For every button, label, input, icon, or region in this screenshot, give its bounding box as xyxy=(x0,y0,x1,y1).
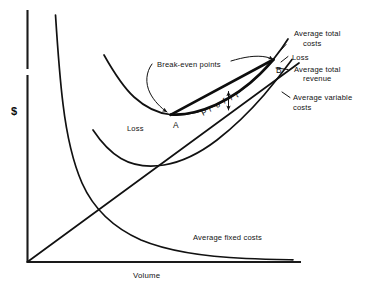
loss-right-leader xyxy=(281,57,288,63)
average-fixed-costs-curve xyxy=(56,15,294,260)
curves-group xyxy=(28,15,299,262)
labels-group: $ Volume Average total costs Loss Averag… xyxy=(11,29,352,280)
break-even-chart-svg: $ Volume Average total costs Loss Averag… xyxy=(0,0,367,286)
point-a-label: A xyxy=(173,120,179,130)
break-even-leader-to-b xyxy=(231,56,273,61)
average-total-revenue-label-line1: Average total xyxy=(294,65,341,74)
point-b-label: B xyxy=(276,65,282,75)
average-total-costs-label-line1: Average total xyxy=(294,29,341,38)
average-total-revenue-line xyxy=(28,63,299,262)
average-total-costs-label-line2: costs xyxy=(303,39,322,48)
average-fixed-costs-label: Average fixed costs xyxy=(193,233,262,242)
average-total-revenue-label-line2: revenue xyxy=(303,74,332,83)
break-even-leader-to-a xyxy=(147,64,167,112)
loss-left-label: Loss xyxy=(127,124,144,133)
loss-right-label: Loss xyxy=(292,53,309,62)
y-axis-label: $ xyxy=(11,105,17,117)
average-variable-costs-label-line2: costs xyxy=(293,103,312,112)
break-even-points-label: Break-even points xyxy=(157,60,221,69)
average-total-costs-curve xyxy=(104,39,288,115)
average-variable-costs-leader xyxy=(282,92,290,98)
x-axis-label: Volume xyxy=(133,271,160,280)
average-variable-costs-label-line1: Average variable xyxy=(293,93,352,102)
break-even-chart-figure: $ Volume Average total costs Loss Averag… xyxy=(0,0,367,286)
